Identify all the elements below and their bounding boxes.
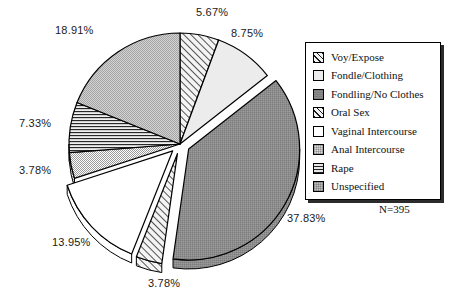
legend-item[interactable]: Oral Sex [313,104,436,122]
slice-label-fondling-no-clothes: 37.83% [287,212,326,224]
legend-swatch-icon [313,126,324,137]
legend-swatch-icon [313,52,324,63]
slice-label-unspecified: 18.91% [55,24,94,36]
legend-item-label: Vaginal Intercourse [331,126,417,137]
legend-item[interactable]: Vaginal Intercourse [313,122,436,140]
legend-item-label: Anal Intercourse [331,144,405,155]
legend-swatch-icon [313,89,324,100]
legend-swatch-icon [313,144,324,155]
legend-item-label: Unspecified [331,181,384,192]
legend-swatch-icon [313,107,324,118]
legend-item-label: Fondle/Clothing [331,70,403,81]
legend-swatch-icon [313,163,324,174]
legend-item[interactable]: Anal Intercourse [313,141,436,159]
slice-label-oral-sex: 3.78% [148,277,180,289]
legend-item-list: Voy/ExposeFondle/ClothingFondling/No Clo… [313,48,436,196]
legend-item[interactable]: Unspecified [313,178,436,196]
slice-label-voy-expose: 5.67% [196,6,228,18]
sample-size-label: N=395 [379,203,410,215]
slice-label-anal-intercourse: 3.78% [19,164,51,176]
pie-slices-group [67,33,299,273]
legend-item-label: Voy/Expose [331,52,384,63]
legend-item[interactable]: Fondle/Clothing [313,67,436,85]
chart-legend: Voy/ExposeFondle/ClothingFondling/No Clo… [305,42,441,200]
pie-chart-figure: 5.67% 8.75% 37.83% 3.78% 13.95% 3.78% 7.… [0,0,457,300]
slice-label-vaginal-intercourse: 13.95% [52,236,91,248]
legend-item-label: Rape [331,163,354,174]
legend-item[interactable]: Fondling/No Clothes [313,85,436,103]
legend-swatch-icon [313,181,324,192]
slice-label-fondle-clothing: 8.75% [231,27,263,39]
legend-swatch-icon [313,70,324,81]
legend-item-label: Fondling/No Clothes [331,89,424,100]
slice-label-rape: 7.33% [19,117,51,129]
legend-item-label: Oral Sex [331,107,370,118]
legend-item[interactable]: Rape [313,159,436,177]
legend-item[interactable]: Voy/Expose [313,48,436,66]
